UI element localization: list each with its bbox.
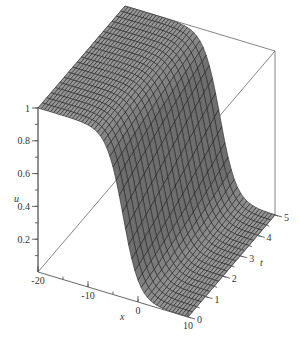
t-tick [205,297,212,299]
t-tick [188,317,195,319]
u-tick-label: 0.4 [18,201,31,212]
t-tick-label: 5 [284,212,289,223]
t-tick-label: 3 [249,253,254,264]
x-tick-label: -20 [31,275,44,286]
u-tick-label: 1 [25,103,30,114]
u-axis-title: u [14,193,19,204]
t-tick-label: 4 [267,232,272,243]
t-axis-title: t [260,257,263,268]
u-tick-label: 0.8 [18,135,31,146]
x-tick-label: 10 [183,320,193,331]
t-minor-tick [232,266,235,267]
t-tick [240,256,247,258]
t-tick [258,235,265,237]
surface-mesh [38,6,275,317]
t-minor-tick [197,307,200,308]
x-tick-label: -10 [81,290,94,301]
t-tick-label: 2 [232,273,237,284]
t-tick [223,276,230,278]
u-tick-label: 0.2 [18,234,31,245]
u-tick-label: 0.6 [18,168,31,179]
surface-plot: 0.20.40.60.81 -20-10010 012345 u x t [0,0,299,338]
t-minor-tick [249,246,252,247]
t-minor-tick [214,286,217,287]
box-edge [38,170,125,272]
x-axis-title: x [119,311,125,322]
t-minor-tick [266,225,269,226]
x-tick-label: 0 [136,305,141,316]
u-axis: 0.20.40.60.81 [18,103,39,273]
t-tick-label: 0 [197,314,202,325]
t-tick-label: 1 [214,294,219,305]
t-tick [275,215,282,217]
